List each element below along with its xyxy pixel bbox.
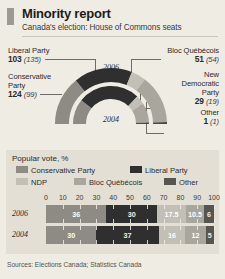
bar-segment-liberal-party: 37 xyxy=(96,226,158,244)
bar-rows: 2006363017.510.562004303716125 xyxy=(6,205,219,247)
label-ndp-name-line1: New xyxy=(182,70,219,79)
legend-swatch-conservative xyxy=(16,166,28,173)
label-bloc-value: 51 xyxy=(195,54,204,64)
ring-label-2006: 2006 xyxy=(103,63,119,72)
seat-donut-chart: 2006 2004 xyxy=(52,60,170,130)
gridline-tick xyxy=(214,205,215,209)
bar-segment-value: 6 xyxy=(207,210,211,219)
bar-segment-value: 12 xyxy=(192,231,200,240)
header-divider xyxy=(22,36,218,37)
bar-row-year: 2004 xyxy=(12,230,28,239)
x-tick-0: 0 xyxy=(44,194,48,201)
label-conservative-name-line1: Conservative xyxy=(8,72,51,81)
label-ndp: New Democratic Party 29 (19) xyxy=(182,70,219,106)
label-other: Other 1 (1) xyxy=(201,108,220,126)
label-other-value: 1 xyxy=(203,116,208,126)
popular-vote-panel: Popular vote, % Conservative Party Liber… xyxy=(6,150,219,254)
label-conservative-previous: (99) xyxy=(24,90,37,99)
x-tick-20: 20 xyxy=(76,194,84,201)
infographic-card: Minority report Canada's election: House… xyxy=(0,0,225,279)
label-liberal-value: 103 xyxy=(8,54,22,64)
legend-label-bloc: Bloc Québécois xyxy=(89,178,142,187)
bar-segment-value: 36 xyxy=(72,210,80,219)
stacked-bar: 363017.510.56 xyxy=(46,205,214,223)
stacked-bar: 303716125 xyxy=(46,226,214,244)
legend-label-other: Other xyxy=(179,178,198,187)
x-tick-70: 70 xyxy=(160,194,168,201)
source-note: Sources: Elections Canada; Statistics Ca… xyxy=(7,261,142,268)
label-liberal: Liberal Party 103 (135) xyxy=(8,46,49,64)
x-tick-80: 80 xyxy=(176,194,184,201)
legend-item-conservative: Conservative Party xyxy=(16,166,95,175)
x-tick-100: 100 xyxy=(208,194,220,201)
ring-2004-liberal xyxy=(81,86,137,108)
legend-item-ndp: NDP xyxy=(16,178,47,187)
legend-row-1: Conservative Party Liberal Party xyxy=(12,166,215,178)
label-ndp-name-line2: Democratic xyxy=(182,79,219,88)
bar-segment-ndp: 17.5 xyxy=(157,205,186,223)
ring-label-2004: 2004 xyxy=(103,115,119,124)
legend-label-conservative: Conservative Party xyxy=(31,166,95,175)
label-bloc-previous: (54) xyxy=(206,55,219,64)
chart-legend: Conservative Party Liberal Party NDP Blo… xyxy=(12,166,215,190)
bar-segment-value: 5 xyxy=(208,231,212,240)
bar-segment-value: 17.5 xyxy=(165,210,179,219)
legend-item-bloc: Bloc Québécois xyxy=(74,178,142,187)
label-bloc-name: Bloc Québécois xyxy=(167,46,219,55)
gridline-tick xyxy=(214,226,215,230)
legend-label-liberal: Liberal Party xyxy=(145,166,188,175)
bar-segment-value: 30 xyxy=(128,210,136,219)
accent-bar xyxy=(7,8,14,25)
legend-item-other: Other xyxy=(164,178,198,187)
bar-row: 2004303716125 xyxy=(6,226,219,244)
bar-segment-liberal-party: 30 xyxy=(106,205,156,223)
bar-segment-value: 37 xyxy=(123,231,131,240)
bar-segment-other: 6 xyxy=(204,205,214,223)
bar-segment-conservative-party: 36 xyxy=(46,205,106,223)
legend-swatch-bloc xyxy=(74,178,86,185)
legend-row-2: NDP Bloc Québécois Other xyxy=(12,178,215,190)
bar-segment-conservative-party: 30 xyxy=(46,226,96,244)
legend-item-liberal: Liberal Party xyxy=(130,166,188,175)
seat-ring-panel: Liberal Party 103 (135) Conservative Par… xyxy=(0,46,225,144)
label-liberal-previous: (135) xyxy=(24,55,41,64)
label-ndp-value: 29 xyxy=(195,96,204,106)
legend-swatch-other xyxy=(164,178,176,185)
bar-row-year: 2006 xyxy=(12,209,28,218)
leader-line-other xyxy=(146,133,164,134)
label-bloc: Bloc Québécois 51 (54) xyxy=(167,46,219,64)
x-tick-50: 50 xyxy=(126,194,134,201)
seat-donut-svg: 2006 2004 xyxy=(52,60,170,130)
legend-swatch-liberal xyxy=(130,166,142,173)
label-other-previous: (1) xyxy=(210,117,219,126)
label-ndp-previous: (19) xyxy=(206,97,219,106)
page-title: Minority report xyxy=(22,6,111,21)
x-tick-90: 90 xyxy=(193,194,201,201)
gridline-tick xyxy=(214,240,215,244)
x-axis-ticks: 0102030405060708090100 xyxy=(46,194,218,204)
bar-segment-value: 10.5 xyxy=(188,210,202,219)
bar-segment-value: 30 xyxy=(67,231,75,240)
bar-segment-other: 5 xyxy=(206,226,214,244)
gridline-tick xyxy=(214,219,215,223)
x-tick-30: 30 xyxy=(92,194,100,201)
bar-segment-ndp: 16 xyxy=(159,226,186,244)
x-tick-40: 40 xyxy=(109,194,117,201)
label-conservative-value: 124 xyxy=(8,89,22,99)
x-tick-10: 10 xyxy=(59,194,67,201)
bar-segment-value: 16 xyxy=(168,231,176,240)
bar-row: 2006363017.510.56 xyxy=(6,205,219,223)
popular-vote-title: Popular vote, % xyxy=(12,154,68,163)
bar-segment-bloc-québécois: 10.5 xyxy=(186,205,204,223)
page-subtitle: Canada's election: House of Commons seat… xyxy=(22,23,181,32)
x-tick-60: 60 xyxy=(143,194,151,201)
legend-swatch-ndp xyxy=(16,178,28,185)
bar-segment-bloc-québécois: 12 xyxy=(185,226,205,244)
legend-label-ndp: NDP xyxy=(31,178,47,187)
